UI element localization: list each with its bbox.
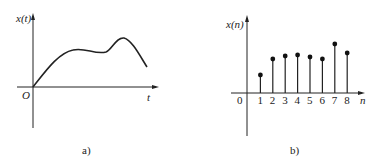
- stem-point: [320, 57, 325, 62]
- a-y-label: x(t): [15, 12, 32, 25]
- b-y-label: x(n): [225, 18, 244, 31]
- tick-label: 1: [257, 94, 263, 106]
- figure-b: x(n) n 0 12345678 b): [225, 15, 366, 157]
- a-x-label: t: [147, 91, 151, 103]
- a-signal-curve: [33, 38, 147, 87]
- tick-label: 8: [344, 94, 350, 106]
- stem-point: [283, 54, 288, 59]
- stem-point: [345, 51, 350, 56]
- tick-label: 6: [319, 94, 325, 106]
- a-caption: a): [82, 144, 91, 157]
- b-origin-label: 0: [237, 94, 243, 106]
- b-tick-labels: 12345678: [257, 94, 350, 106]
- b-stems: [258, 42, 350, 93]
- b-y-arrow-icon: [245, 15, 249, 22]
- b-x-label: n: [360, 94, 366, 106]
- stem-point: [258, 73, 263, 78]
- stem-point: [270, 57, 275, 62]
- figure-a: x(t) t O a): [15, 12, 159, 157]
- b-caption: b): [290, 144, 300, 157]
- a-origin-label: O: [22, 89, 30, 101]
- tick-label: 3: [282, 94, 288, 106]
- stem-point: [308, 55, 313, 60]
- stem-point: [332, 42, 337, 47]
- a-y-arrow-icon: [31, 13, 35, 20]
- stem-point: [295, 53, 300, 58]
- tick-label: 5: [307, 94, 313, 106]
- figure-canvas: x(t) t O a) x(n) n 0 12345678 b): [0, 0, 383, 168]
- tick-label: 4: [295, 94, 301, 106]
- a-x-arrow-icon: [152, 85, 159, 89]
- tick-label: 2: [270, 94, 276, 106]
- tick-label: 7: [332, 94, 338, 106]
